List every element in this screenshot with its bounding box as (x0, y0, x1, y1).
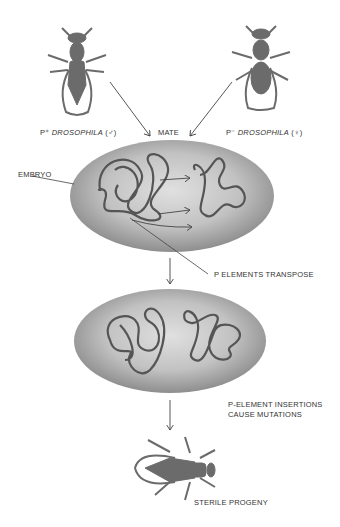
male-species: DROSOPHILA (52, 128, 103, 137)
female-sex-symbol: (♀) (291, 128, 302, 137)
female-species: DROSOPHILA (238, 128, 289, 137)
embryo-2 (74, 289, 266, 393)
diagram-canvas (0, 0, 340, 527)
progeny-label: STERILE PROGENY (194, 498, 268, 507)
embryo-label: EMBRYO (18, 170, 52, 179)
embryo-1 (70, 140, 274, 252)
progeny-fly-icon (135, 437, 215, 500)
mate-label: MATE (158, 128, 179, 137)
male-parent-label: P⁺ DROSOPHILA (♂) (40, 128, 116, 137)
male-genotype: P⁺ (40, 128, 49, 137)
female-fly-icon (232, 26, 290, 110)
male-sex-symbol: (♂) (105, 128, 116, 137)
insertions-label-line1: P-ELEMENT INSERTIONS (228, 400, 323, 409)
female-parent-label: P⁻ DROSOPHILA (♀) (226, 128, 302, 137)
male-fly-icon (48, 28, 106, 115)
female-genotype: P⁻ (226, 128, 235, 137)
insertions-label-line2: CAUSE MUTATIONS (228, 410, 302, 419)
transpose-label: P ELEMENTS TRANSPOSE (214, 270, 314, 279)
